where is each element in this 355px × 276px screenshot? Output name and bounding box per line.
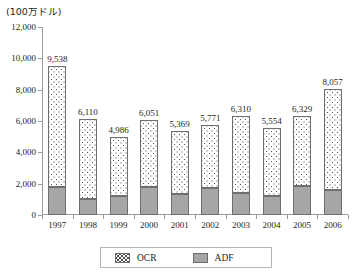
y-axis-label: 10,000 <box>11 53 36 63</box>
x-axis-category-label: 1999 <box>110 220 128 230</box>
x-axis-category-label: 2001 <box>171 220 189 230</box>
x-tick-mark <box>317 215 318 219</box>
bar-column[interactable]: 6,3102003 <box>232 116 250 215</box>
bar-column[interactable]: 5,5542004 <box>263 128 281 215</box>
bar-segment-ocr[interactable] <box>48 66 66 187</box>
bar-value-label: 6,051 <box>139 108 159 118</box>
bar-segment-adf[interactable] <box>110 196 128 215</box>
bar-segment-adf[interactable] <box>79 199 97 215</box>
x-axis-category-label: 2003 <box>232 220 250 230</box>
x-tick-mark <box>73 215 74 219</box>
y-axis-line <box>42 27 43 215</box>
y-axis-label: 6,000 <box>16 116 36 126</box>
bar-column[interactable]: 8,0572006 <box>324 89 342 215</box>
bar-column[interactable]: 4,9861999 <box>110 137 128 215</box>
bar-value-label: 4,986 <box>108 125 128 135</box>
x-tick-mark <box>103 215 104 219</box>
legend-label-ocr: OCR <box>137 253 157 263</box>
x-tick-mark <box>226 215 227 219</box>
bar-column[interactable]: 6,0512000 <box>140 120 158 215</box>
bar-value-label: 5,771 <box>200 113 220 123</box>
chart-container: (100万ドル) 12,00010,0008,0006,0004,0002,00… <box>0 0 355 276</box>
bar-segment-adf[interactable] <box>48 187 66 215</box>
chart-legend: OCR ADF <box>100 247 272 268</box>
bar-segment-adf[interactable] <box>324 190 342 215</box>
x-axis-category-label: 1997 <box>48 220 66 230</box>
bar-segment-ocr[interactable] <box>140 120 158 187</box>
legend-label-adf: ADF <box>215 253 234 263</box>
bar-column[interactable]: 6,1101998 <box>79 119 97 215</box>
y-tick-mark <box>38 58 42 59</box>
plot-area: 12,00010,0008,0006,0004,0002,0000 9,5381… <box>42 27 348 215</box>
bar-segment-ocr[interactable] <box>232 116 250 193</box>
bar-segment-ocr[interactable] <box>110 137 128 196</box>
x-tick-mark <box>42 215 43 219</box>
y-tick-mark <box>38 27 42 28</box>
x-axis-category-label: 2005 <box>293 220 311 230</box>
y-axis-label: 0 <box>32 210 37 220</box>
bar-value-label: 8,057 <box>323 77 343 87</box>
bar-segment-ocr[interactable] <box>79 119 97 199</box>
y-tick-mark <box>38 121 42 122</box>
legend-swatch-ocr-icon <box>115 253 130 263</box>
bar-segment-adf[interactable] <box>232 193 250 215</box>
y-tick-mark <box>38 184 42 185</box>
y-tick-mark <box>38 152 42 153</box>
y-axis-unit-label: (100万ドル) <box>6 4 62 18</box>
x-axis-category-label: 1998 <box>79 220 97 230</box>
bar-column[interactable]: 9,5381997 <box>48 66 66 215</box>
x-tick-mark <box>195 215 196 219</box>
y-axis-label: 8,000 <box>16 85 36 95</box>
bar-segment-ocr[interactable] <box>171 131 189 194</box>
y-axis-label: 4,000 <box>16 147 36 157</box>
y-tick-mark <box>38 90 42 91</box>
bar-column[interactable]: 5,7712002 <box>201 125 219 215</box>
legend-item-ocr[interactable]: OCR <box>115 253 157 263</box>
bar-value-label: 6,329 <box>292 104 312 114</box>
legend-swatch-adf-icon <box>193 253 208 263</box>
bar-segment-adf[interactable] <box>140 187 158 215</box>
bar-column[interactable]: 5,3692001 <box>171 131 189 215</box>
bar-segment-adf[interactable] <box>263 196 281 215</box>
bar-segment-adf[interactable] <box>293 186 311 215</box>
bar-segment-ocr[interactable] <box>201 125 219 188</box>
y-axis-label: 12,000 <box>11 22 36 32</box>
bar-value-label: 6,310 <box>231 104 251 114</box>
legend-item-adf[interactable]: ADF <box>193 253 234 263</box>
bar-value-label: 5,554 <box>261 116 281 126</box>
x-tick-mark <box>164 215 165 219</box>
bar-segment-adf[interactable] <box>171 194 189 215</box>
bar-segment-ocr[interactable] <box>324 89 342 190</box>
x-axis-category-label: 2006 <box>324 220 342 230</box>
bar-segment-ocr[interactable] <box>293 116 311 186</box>
bar-segment-adf[interactable] <box>201 188 219 215</box>
bar-column[interactable]: 6,3292005 <box>293 116 311 215</box>
x-tick-mark <box>287 215 288 219</box>
x-axis-category-label: 2004 <box>263 220 281 230</box>
x-axis-category-label: 2000 <box>140 220 158 230</box>
y-axis-label: 2,000 <box>16 179 36 189</box>
x-tick-mark <box>256 215 257 219</box>
bar-value-label: 6,110 <box>78 107 98 117</box>
bar-value-label: 5,369 <box>170 119 190 129</box>
x-tick-mark <box>134 215 135 219</box>
bar-value-label: 9,538 <box>47 54 67 64</box>
x-tick-mark <box>348 215 349 219</box>
x-axis-category-label: 2002 <box>201 220 219 230</box>
bar-segment-ocr[interactable] <box>263 128 281 196</box>
